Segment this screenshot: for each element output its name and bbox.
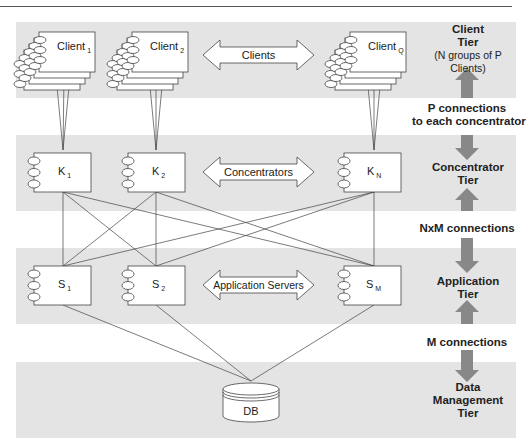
concentrator-tier-title: Concentrator Tier (418, 161, 518, 187)
s2-label: S2 (152, 278, 165, 292)
m-connections-label: M connections (412, 336, 522, 349)
db-label: DB (223, 405, 279, 417)
client-2-label: Client2 (150, 40, 184, 54)
concentrator-application-mesh (63, 192, 374, 266)
data-tier-title: Data Management Tier (418, 381, 518, 420)
s1-label: S1 (58, 278, 71, 292)
k1-label: K1 (58, 165, 71, 179)
application-data-lines (63, 305, 374, 381)
k2-label: K2 (152, 165, 165, 179)
client-q-label: ClientQ (368, 40, 404, 54)
client-1-label: Client1 (57, 40, 91, 54)
concentrators-arrow-label: Concentrators (216, 166, 301, 178)
nxm-connections-label: NxM connections (412, 222, 522, 235)
kn-label: KN (367, 165, 381, 179)
client-tier-title: Client Tier (N groups of P Clients) (418, 23, 518, 75)
application-tier-title: Application Tier (418, 275, 518, 301)
sm-label: SM (366, 278, 381, 292)
application-servers-arrow-label: Application Servers (210, 279, 307, 291)
clients-arrow-label: Clients (220, 49, 297, 61)
p-connections-label: P connections to each concentrator (412, 102, 522, 128)
